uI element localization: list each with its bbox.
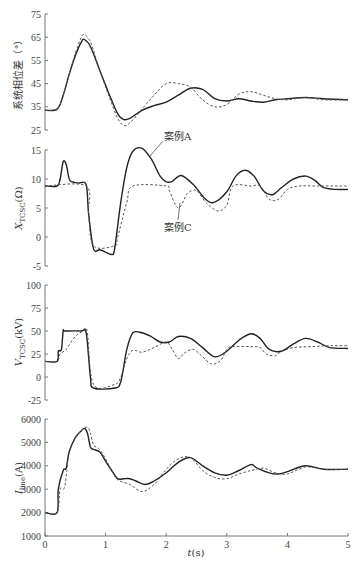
y-tick-label: 4000	[21, 460, 41, 471]
panel2-ylabel-sub: TCSC	[19, 202, 27, 222]
y-tick-label: 50	[31, 326, 41, 337]
y-tick-label: 75	[31, 303, 41, 314]
y-tick-label: 1000	[21, 531, 41, 542]
y-tick-label: 0	[36, 232, 41, 243]
y-tick-label: 15	[31, 145, 41, 156]
panel2-ylabel: XTCSC(Ω)	[13, 186, 27, 231]
y-tick-label: 5	[36, 203, 41, 214]
x-tick-label: 2	[164, 539, 169, 550]
annotation-case-c: 案例C	[164, 221, 192, 233]
y-tick-label: 25	[31, 349, 41, 360]
y-tick-label: 2000	[21, 507, 41, 518]
y-tick-label: 100	[26, 280, 41, 291]
x-tick-label: 4	[285, 539, 290, 550]
annotation-a-leader	[150, 141, 163, 156]
panel1-ylabel: 系统相位差（°）	[12, 35, 24, 110]
x-tick-label: 5	[346, 539, 351, 550]
series-line-case-c	[45, 427, 348, 514]
panel3-ylabel-unit: (kV)	[13, 318, 24, 339]
y-tick-label: 35	[31, 101, 41, 112]
y-tick-label: -25	[28, 395, 41, 406]
y-tick-label: 5000	[21, 437, 41, 448]
series-line-case-a	[45, 428, 348, 514]
chart-panels: 253545556575-5051015-2502550751001000200…	[21, 9, 351, 551]
x-tick-label: 1	[103, 539, 108, 550]
y-tick-label: 75	[31, 9, 41, 20]
x-axis-label-unit: (s)	[192, 547, 205, 558]
x-tick-label: 3	[224, 539, 229, 550]
panel3-ylabel-sub: TCSC	[19, 339, 27, 359]
annotation-case-a: 案例A	[164, 130, 192, 142]
series-line-case-a	[45, 39, 348, 120]
panel4-ylabel-sub: line	[19, 477, 27, 490]
panel3-ylabel: VTCSC(kV)	[13, 318, 27, 367]
annotation-c-leader	[178, 203, 180, 220]
y-tick-label: 55	[31, 55, 41, 66]
tcsc-comparison-chart: 253545556575-5051015-2502550751001000200…	[0, 0, 359, 565]
y-tick-label: 25	[31, 125, 41, 136]
y-tick-label: 0	[36, 372, 41, 383]
y-tick-label: 45	[31, 78, 41, 89]
panel-tcsc-reactance: -5051015	[31, 145, 348, 272]
panel2-ylabel-unit: (Ω)	[13, 186, 24, 202]
y-tick-label: -5	[33, 261, 41, 272]
series-line-case-c	[45, 184, 348, 248]
panel-tcsc-voltage: -250255075100	[26, 280, 348, 406]
y-tick-label: 10	[31, 174, 41, 185]
x-tick-label: 0	[43, 539, 48, 550]
series-line-case-a	[45, 329, 348, 389]
panel-line-current: 100020003000400050006000012345	[21, 414, 351, 551]
y-tick-label: 6000	[21, 414, 41, 425]
x-axis-label: t(s)	[188, 547, 205, 558]
panel-phase-difference: 253545556575	[31, 9, 348, 136]
y-tick-label: 65	[31, 32, 41, 43]
panel4-ylabel-unit: (A)	[13, 462, 24, 477]
